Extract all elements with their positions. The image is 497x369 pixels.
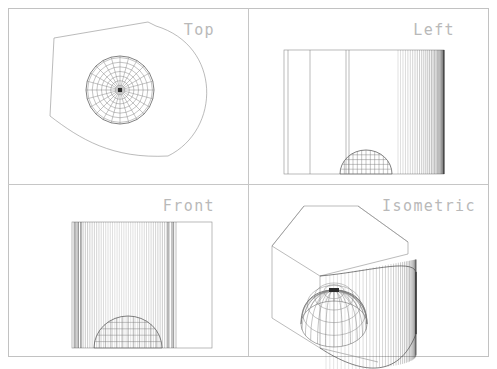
viewport-top — [50, 22, 207, 156]
drawing-sheet: TopLeftFrontIsometric — [0, 0, 497, 369]
top-sphere-meridian — [111, 90, 120, 123]
viewport-front — [72, 222, 212, 348]
top-sphere-mesh — [86, 56, 154, 124]
viewport-label-front: Front — [163, 197, 215, 215]
iso-edge — [320, 254, 408, 276]
left-rect — [284, 50, 444, 174]
viewport-label-left: Left — [413, 21, 455, 39]
viewport-label-top: Top — [184, 21, 215, 39]
top-sphere-meridian — [120, 90, 153, 99]
iso-edge — [272, 206, 304, 246]
viewport-isometric — [272, 206, 416, 369]
top-sphere-meridian — [87, 90, 120, 99]
iso-edge — [272, 246, 320, 276]
top-sphere-meridian — [111, 57, 120, 90]
iso-edge — [320, 348, 378, 362]
top-sphere-pole — [118, 88, 122, 92]
top-outline — [50, 22, 207, 156]
top-sphere-meridian — [120, 81, 153, 90]
iso-cyl-top-curve — [320, 266, 416, 276]
drawing-canvas: TopLeftFrontIsometric — [0, 0, 497, 369]
left-dome-mesh — [340, 150, 392, 174]
top-sphere-meridian — [120, 57, 129, 90]
viewport-label-isometric: Isometric — [382, 197, 476, 215]
viewport-left — [284, 50, 444, 174]
iso-cyl-bottom-curve — [320, 334, 416, 368]
iso-dome-pole — [329, 288, 339, 292]
top-sphere-meridian — [87, 81, 120, 90]
top-sphere-meridian — [120, 90, 129, 123]
front-dome-mesh — [94, 316, 162, 348]
iso-dome-mesh — [301, 283, 367, 347]
